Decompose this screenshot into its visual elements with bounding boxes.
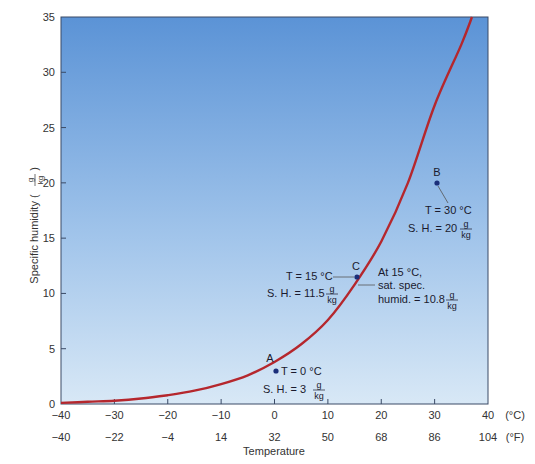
point-a-temp: T = 0 °C [281, 365, 322, 377]
x-axis: −40−40−30−22−20−4−1014032105020683086401… [52, 399, 498, 443]
point-a-unit-num: g [316, 380, 321, 390]
x-tick-label-fahrenheit: 32 [268, 431, 280, 443]
x-tick-label-celsius: 20 [375, 409, 387, 421]
x-tick-label-fahrenheit: 50 [322, 431, 334, 443]
x-tick-label-fahrenheit: 104 [479, 431, 497, 443]
x-tick-label-fahrenheit: 14 [215, 431, 227, 443]
point-b-sh: S. H. = 20 [408, 222, 457, 234]
sat-annot-unit-den: kg [447, 301, 457, 311]
point-c-temp: T = 15 °C [286, 270, 333, 282]
point-a-marker [273, 368, 278, 373]
point-b-unit-den: kg [461, 230, 471, 240]
x-unit-fahrenheit: (°F) [506, 431, 524, 443]
x-tick-label-fahrenheit: 68 [375, 431, 387, 443]
x-tick-label-fahrenheit: −40 [52, 431, 71, 443]
y-axis-unit-den: kg [36, 176, 45, 184]
point-a-unit-den: kg [314, 391, 324, 401]
point-b-unit-num: g [463, 219, 468, 229]
y-tick-label: 10 [43, 287, 55, 299]
sat-annot-unit-num: g [449, 290, 454, 300]
x-axis-title: Temperature [243, 445, 305, 457]
point-c-unit-num: g [329, 284, 334, 294]
y-tick-label: 5 [49, 343, 55, 355]
sat-annot-line2: sat. spec. [378, 279, 425, 291]
x-unit-celsius: (°C) [505, 409, 525, 421]
point-c-sh: S. H. = 11.5 [267, 287, 325, 299]
point-c-marker [354, 274, 359, 279]
y-tick-label: 25 [43, 122, 55, 134]
y-tick-label: 15 [43, 232, 55, 244]
sat-annot-line3: humid. = 10.8 [378, 293, 445, 305]
y-axis-title-close: ) [28, 167, 40, 171]
point-a-sh: S. H. = 3 [263, 383, 306, 395]
specific-humidity-chart: 05101520253035 −40−40−30−22−20−4−1014032… [0, 0, 535, 464]
x-tick-label-celsius: −10 [212, 409, 231, 421]
point-b-label: B [433, 166, 440, 178]
point-b-marker [434, 180, 439, 185]
x-tick-label-celsius: −20 [158, 409, 177, 421]
x-tick-label-fahrenheit: −4 [161, 431, 174, 443]
x-tick-label-celsius: 40 [482, 409, 494, 421]
y-tick-label: 30 [43, 66, 55, 78]
x-tick-label-celsius: −30 [105, 409, 124, 421]
plot-area [61, 17, 488, 404]
y-axis-unit-num: g [26, 178, 35, 182]
x-tick-label-celsius: 30 [429, 409, 441, 421]
point-c-unit-den: kg [327, 295, 337, 305]
x-tick-label-fahrenheit: 86 [429, 431, 441, 443]
x-tick-label-celsius: 0 [271, 409, 277, 421]
point-b-temp: T = 30 °C [425, 204, 472, 216]
point-a-label: A [266, 352, 274, 364]
x-tick-label-fahrenheit: −22 [105, 431, 124, 443]
x-tick-label-celsius: −40 [52, 409, 71, 421]
x-tick-label-celsius: 10 [322, 409, 334, 421]
point-c-label: C [352, 260, 360, 272]
y-axis-title-main: Specific humidity ( [28, 194, 40, 284]
sat-annot-line1: At 15 °C, [378, 266, 422, 278]
y-axis-title: Specific humidity ( g kg ) [26, 167, 45, 283]
y-tick-label: 35 [43, 11, 55, 23]
